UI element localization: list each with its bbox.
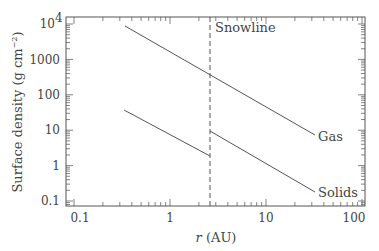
x-tick-label: 1 (166, 211, 174, 225)
y-tick-label: 1 (52, 159, 60, 173)
y-tick-label: 10 (40, 17, 55, 31)
y-axis-label: Surface density (g cm−2) (10, 31, 25, 192)
surface-density-chart: 0.1 1 10 100 1000 10 4 0.1 1 10 100 r (A… (0, 0, 379, 251)
minor-ticks (66, 17, 365, 206)
snowline-label: Snowline (215, 20, 276, 35)
solids-inner-line (124, 110, 210, 156)
y-tick-label: 100 (37, 88, 60, 102)
solids-outer-line (210, 131, 315, 192)
y-tick-label: 10 (45, 123, 60, 137)
gas-label: Gas (318, 129, 343, 144)
solids-label: Solids (318, 185, 358, 200)
x-tick-label: 0.1 (70, 211, 89, 225)
x-axis-label: r (AU) (196, 230, 237, 245)
x-tick-label: 100 (343, 211, 366, 225)
y-tick-label-exp: 4 (55, 11, 63, 25)
gas-line (125, 26, 315, 135)
x-tick-label: 10 (258, 211, 273, 225)
plot-frame (66, 17, 365, 206)
y-tick-label: 1000 (29, 53, 60, 67)
y-tick-label: 0.1 (41, 194, 60, 208)
